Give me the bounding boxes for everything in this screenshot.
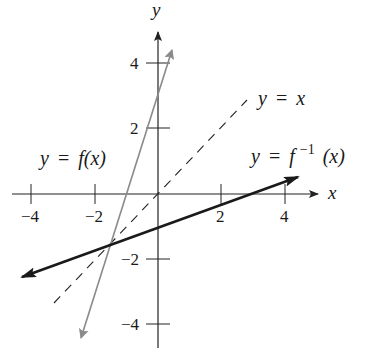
y-axis-label: y bbox=[150, 0, 161, 20]
y-tick-label-neg4: −4 bbox=[121, 315, 140, 334]
y-tick-label-4: 4 bbox=[130, 54, 139, 73]
finverse-label: y = f −1 (x) bbox=[249, 136, 345, 168]
y-tick-label-2: 2 bbox=[130, 119, 139, 138]
f-label: y = f(x) bbox=[38, 147, 106, 170]
x-tick-label-neg2: −2 bbox=[85, 207, 103, 226]
finverse-line bbox=[22, 177, 298, 277]
identity-line bbox=[54, 100, 247, 303]
y-tick-label-neg2: −2 bbox=[121, 250, 139, 269]
identity-label: y = x bbox=[256, 87, 305, 110]
x-tick-label-4: 4 bbox=[280, 207, 289, 226]
x-tick-label-neg4: −4 bbox=[21, 207, 40, 226]
x-tick-label-2: 2 bbox=[216, 207, 225, 226]
function-inverse-graph: −4 −2 2 4 4 2 −2 −4 x y y = f(x) y = x y… bbox=[0, 0, 373, 354]
x-axis-label: x bbox=[327, 182, 337, 203]
